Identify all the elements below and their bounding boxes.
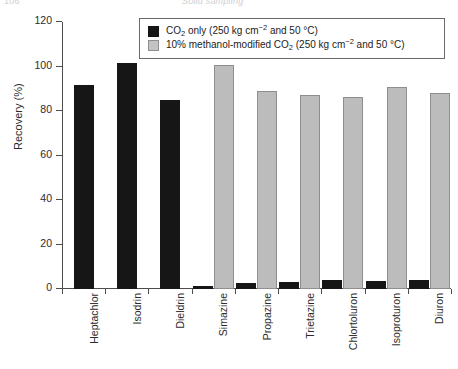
bar-isodrin-co2-only [117, 63, 137, 289]
bar-simazine-methanol [214, 65, 234, 289]
plot-area: 020406080100120 [62, 22, 451, 289]
y-tick-label-60: 60 [40, 148, 52, 160]
x-axis-category-labels: HeptachlorIsodrinDieldrinSimazinePropazi… [62, 293, 451, 369]
x-category-label-simazine: Simazine [217, 293, 229, 336]
y-tick-label-20: 20 [40, 237, 52, 249]
y-tick-label-0: 0 [46, 281, 52, 293]
bar-propazine-co2-only [236, 283, 256, 289]
y-tick-20: 20 [56, 244, 62, 245]
chart-legend: CO2 only (250 kg cm−2 and 50 °C) 10% met… [139, 18, 445, 59]
y-tick-120: 120 [56, 21, 62, 22]
y-axis-line [62, 22, 63, 289]
y-tick-label-120: 120 [34, 14, 52, 26]
bar-dieldrin-co2-only [160, 100, 180, 289]
bar-chlortoluron-methanol [343, 97, 363, 289]
x-category-label-dieldrin: Dieldrin [174, 293, 186, 329]
legend-swatch-icon-light [148, 40, 159, 51]
y-tick-80: 80 [56, 110, 62, 111]
x-category-label-heptachlor: Heptachlor [88, 293, 100, 344]
legend-label-methanol-modified: 10% methanol-modified CO2 (250 kg cm−2 a… [166, 36, 405, 54]
x-category-label-trietazine: Trietazine [304, 293, 316, 339]
x-category-label-isodrin: Isodrin [131, 293, 143, 325]
page-number: 106 [4, 0, 20, 6]
bar-trietazine-co2-only [279, 282, 299, 289]
x-tick-9 [451, 289, 452, 294]
bar-trietazine-methanol [300, 95, 320, 289]
bar-isoproturon-co2-only [366, 281, 386, 289]
y-tick-40: 40 [56, 199, 62, 200]
legend-entry-methanol-modified: 10% methanol-modified CO2 (250 kg cm−2 a… [148, 38, 436, 52]
bar-heptachlor-co2-only [74, 85, 94, 289]
y-tick-label-100: 100 [34, 59, 52, 71]
bar-diuron-methanol [430, 93, 450, 289]
bar-simazine-co2-only [193, 286, 213, 289]
x-category-label-chlortoluron: Chlortoluron [347, 293, 359, 350]
y-tick-label-80: 80 [40, 103, 52, 115]
x-category-label-propazine: Propazine [261, 293, 273, 340]
legend-swatch-icon-dark [148, 26, 159, 37]
bar-chlortoluron-co2-only [322, 280, 342, 289]
y-tick-60: 60 [56, 155, 62, 156]
y-tick-label-40: 40 [40, 192, 52, 204]
x-category-label-diuron: Diuron [433, 293, 445, 324]
y-axis-label: Recovery (%) [12, 83, 24, 150]
x-category-label-isoproturon: Isoproturon [390, 293, 402, 346]
bar-propazine-methanol [257, 91, 277, 289]
running-header: 106 Solid sampling [0, 0, 458, 6]
bar-isoproturon-methanol [387, 87, 407, 289]
bar-diuron-co2-only [409, 280, 429, 289]
y-tick-100: 100 [56, 66, 62, 67]
running-title: Solid sampling [182, 0, 243, 6]
figure-bar-chart: 106 Solid sampling Recovery (%) 02040608… [0, 0, 458, 369]
